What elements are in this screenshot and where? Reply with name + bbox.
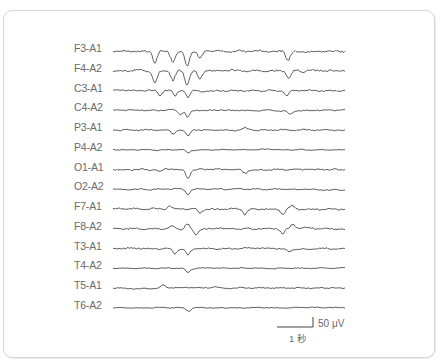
eeg-trace [113, 247, 345, 255]
eeg-trace [113, 205, 345, 215]
time-scale-label: 1 秒 [289, 331, 307, 345]
eeg-trace [113, 267, 345, 272]
eeg-traces [0, 0, 441, 363]
eeg-trace [113, 224, 345, 235]
eeg-trace [113, 109, 345, 117]
eeg-trace [113, 285, 345, 289]
eeg-trace [113, 127, 345, 136]
eeg-trace [113, 89, 345, 98]
amplitude-scale-label: 50 μV [318, 318, 344, 329]
eeg-trace [113, 168, 345, 178]
eeg-trace [113, 307, 345, 311]
eeg-trace [113, 69, 345, 85]
scale-bar [277, 317, 313, 327]
eeg-trace [113, 188, 345, 194]
eeg-trace [113, 50, 345, 66]
eeg-trace [113, 149, 345, 153]
